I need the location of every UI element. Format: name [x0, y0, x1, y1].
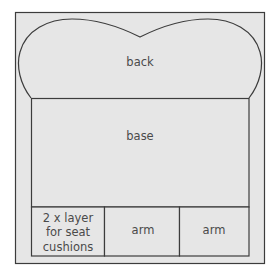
cushion-label-line3: cushions: [43, 240, 93, 254]
back-label: back: [126, 55, 154, 69]
base-piece: [32, 99, 250, 208]
arm2-label: arm: [203, 223, 226, 237]
base-label: base: [126, 129, 153, 143]
pattern-layout-diagram: back base 2 x layer for seat cushions ar…: [0, 0, 280, 277]
arm1-label: arm: [132, 223, 155, 237]
cushion-label-line2: for seat: [46, 225, 91, 239]
cushion-label-line1: 2 x layer: [43, 211, 94, 225]
